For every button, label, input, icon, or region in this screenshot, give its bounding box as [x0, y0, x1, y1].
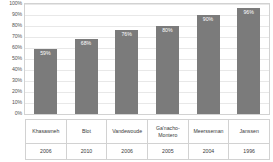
bar-slot: 80%: [147, 4, 188, 114]
bar[interactable]: 76%: [115, 30, 138, 114]
y-axis-tick-label: 50%: [12, 56, 22, 61]
y-axis-tick-label: 90%: [12, 12, 22, 17]
bar-slot: 76%: [106, 4, 147, 114]
category-years-row: 200620102006200520041996: [26, 144, 270, 160]
category-year-cell: 2006: [107, 144, 148, 160]
category-name-cell: Khasawneh: [26, 120, 67, 144]
bar[interactable]: 80%: [156, 26, 179, 114]
bar-value-label: 76%: [115, 32, 138, 37]
plot-wrapper: 100%90%80%70%60%50%40%30%20%10%0% 59%68%…: [0, 3, 273, 119]
bar[interactable]: 96%: [237, 8, 260, 114]
bar[interactable]: 59%: [34, 49, 57, 114]
bar-slot: 68%: [66, 4, 107, 114]
bar-slot: 90%: [188, 4, 229, 114]
category-year-cell: 1996: [229, 144, 270, 160]
bar-value-label: 90%: [197, 17, 220, 22]
y-axis-tick-label: 70%: [12, 34, 22, 39]
y-axis-tick-label: 0%: [15, 111, 22, 116]
bar-chart: 100%90%80%70%60%50%40%30%20%10%0% 59%68%…: [0, 0, 273, 162]
bar[interactable]: 90%: [197, 15, 220, 114]
y-axis-tick-label: 60%: [12, 45, 22, 50]
bar[interactable]: 68%: [75, 39, 98, 114]
bar-value-label: 80%: [156, 28, 179, 33]
bar-value-label: 59%: [34, 51, 57, 56]
category-name-cell: Meersseman: [188, 120, 229, 144]
y-axis-tick-label: 10%: [12, 100, 22, 105]
category-year-cell: 2005: [147, 144, 188, 160]
category-name-cell: Vandewoude: [107, 120, 148, 144]
bar-value-label: 96%: [237, 10, 260, 15]
y-axis-tick-label: 80%: [12, 23, 22, 28]
category-year-cell: 2006: [26, 144, 67, 160]
plot-area: 59%68%76%80%90%96%: [24, 3, 270, 115]
y-axis-tick-label: 100%: [9, 1, 22, 6]
category-name-cell: Ga'nacho-Montero: [147, 120, 188, 144]
y-axis-tick-label: 40%: [12, 67, 22, 72]
category-year-cell: 2004: [188, 144, 229, 160]
bar-series: 59%68%76%80%90%96%: [25, 4, 269, 114]
bar-value-label: 68%: [75, 41, 98, 46]
category-year-cell: 2010: [66, 144, 107, 160]
category-name-cell: Janssen: [229, 120, 270, 144]
category-name-cell: Blot: [66, 120, 107, 144]
bar-slot: 59%: [25, 4, 66, 114]
gridline: [25, 114, 269, 115]
bar-slot: 96%: [228, 4, 269, 114]
category-table: KhasawnehBlotVandewoudeGa'nacho-MonteroM…: [25, 119, 270, 160]
y-axis: 100%90%80%70%60%50%40%30%20%10%0%: [0, 3, 24, 115]
category-names-row: KhasawnehBlotVandewoudeGa'nacho-MonteroM…: [26, 120, 270, 144]
y-axis-tick-label: 30%: [12, 78, 22, 83]
y-axis-tick-label: 20%: [12, 89, 22, 94]
